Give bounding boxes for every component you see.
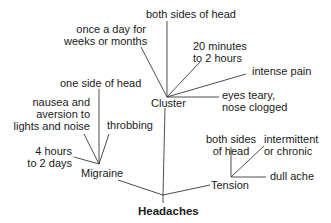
cluster-attr-eyes-nose: eyes teary, nose clogged [222,89,287,113]
root-node-headaches: Headaches [138,205,199,217]
connector-root-migraine [118,180,163,195]
connector-cluster-once-a-day [141,47,167,97]
cluster-attr-frequency: once a day for weeks or months [64,23,146,47]
node-tension: Tension [211,179,249,191]
tension-attr-both-sides-of-head: both sides of head [198,133,264,157]
cluster-attr-intense-pain: intense pain [252,65,311,77]
connector-migraine-4-hours [74,157,99,164]
connector-migraine-nausea [84,134,99,164]
cluster-attr-both-sides-of-head: both sides of head [146,8,236,20]
migraine-attr-nausea-aversion: nausea and aversion to lights and noise [4,96,90,132]
connector-root-tension [163,185,210,195]
migraine-attr-one-side-of-head: one side of head [60,77,141,89]
node-migraine: Migraine [81,167,123,179]
migraine-attr-throbbing: throbbing [107,119,153,131]
cluster-attr-duration: 20 minutes to 2 hours [193,40,247,64]
tension-attr-dull-ache: dull ache [270,170,314,182]
tension-attr-intermittent-chronic: intermittent or chronic [264,133,318,157]
migraine-attr-duration: 4 hours to 2 days [20,145,72,169]
node-cluster: Cluster [151,97,186,109]
connector-root-cluster [163,108,165,195]
connector-migraine-throbbing [99,134,109,164]
